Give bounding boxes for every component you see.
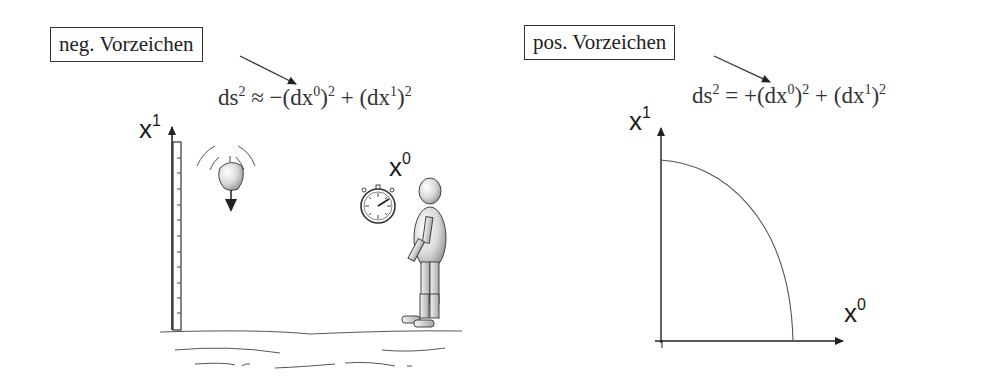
- exponent: 2: [879, 82, 886, 97]
- stopwatch-icon: [361, 185, 395, 223]
- paren: ): [397, 85, 405, 110]
- exponent: 2: [238, 84, 245, 99]
- callout-negative-sign: neg. Vorzeichen: [50, 27, 203, 62]
- paren: ): [320, 85, 328, 110]
- plus: +: [815, 83, 828, 108]
- axis-base: x: [139, 114, 152, 144]
- axis-base: x: [389, 152, 402, 182]
- falling-apple-icon: [197, 146, 255, 212]
- exponent: 2: [712, 82, 719, 97]
- paren: ): [871, 83, 879, 108]
- axis-label-x0-left: x0: [389, 150, 411, 183]
- term: (dx: [283, 85, 314, 110]
- callout-arrow-right: [714, 56, 770, 82]
- quarter-circle-curve: [660, 160, 793, 341]
- axis-label-x1-right: x1: [629, 104, 651, 137]
- person-figure: [402, 178, 446, 327]
- exponent: 2: [405, 84, 412, 99]
- formula-lhs: ds: [692, 83, 712, 108]
- term: (dx: [359, 85, 390, 110]
- axis-index: 1: [642, 104, 651, 121]
- axis-base: x: [844, 298, 857, 328]
- axis-index: 1: [152, 112, 161, 129]
- ground-lines: [160, 331, 462, 368]
- plus: +: [341, 85, 354, 110]
- axis-index: 0: [857, 296, 866, 313]
- coordinate-axes: [655, 128, 843, 348]
- index: 0: [788, 82, 795, 97]
- callout-arrow-left: [240, 56, 296, 84]
- formula-minkowski-metric: ds2 ≈ −(dx0)2 + (dx1)2: [218, 84, 412, 111]
- relation-symbol: =: [725, 83, 738, 108]
- axis-label-x1-left: x1: [139, 112, 161, 145]
- sign: +: [744, 83, 757, 108]
- term: (dx: [757, 83, 788, 108]
- exponent: 2: [802, 82, 809, 97]
- relation-symbol: ≈: [251, 85, 264, 110]
- formula-euclidean-metric: ds2 = +(dx0)2 + (dx1)2: [692, 82, 886, 109]
- axis-base: x: [629, 106, 642, 136]
- formula-lhs: ds: [218, 85, 238, 110]
- sign: −: [270, 85, 283, 110]
- exponent: 2: [328, 84, 335, 99]
- term: (dx: [834, 83, 865, 108]
- axis-index: 0: [402, 150, 411, 167]
- axis-label-x0-right: x0: [844, 296, 866, 329]
- ruler-icon: [172, 127, 181, 330]
- callout-positive-sign: pos. Vorzeichen: [524, 25, 675, 60]
- index: 1: [390, 84, 397, 99]
